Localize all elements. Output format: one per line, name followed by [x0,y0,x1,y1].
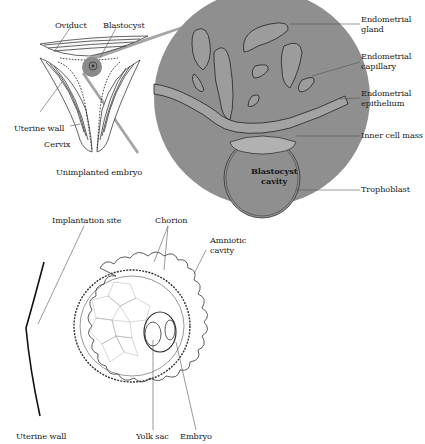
label-yolk-sac: Yolk sac [136,432,169,442]
label-endometrial-epithelium: Endometrial epithelium [361,89,411,108]
label-trophoblast: Trophoblast [361,185,410,195]
extraembryonic-cells [90,282,150,362]
label-chorion: Chorion [155,216,188,226]
label-endometrial-gland: Endometrial gland [361,15,411,34]
implantation-diagram: Oviduct Blastocyst Uterine wall Cervix U… [0,0,425,444]
label-cervix: Cervix [44,140,70,150]
uterine-wall-edge [26,262,44,416]
chorionic-villi [88,252,208,382]
label-inner-cell-mass: Inner cell mass [361,131,423,141]
label-blastocyst: Blastocyst [103,21,145,31]
amnion [144,312,176,352]
blastocyst-highlight [82,57,102,77]
label-embryo: Embryo [180,432,212,442]
label-implantation-site: Implantation site [52,216,121,226]
label-uterine-wall-bottom: Uterine wall [16,432,66,442]
chorion-membrane [74,270,190,382]
label-uterine-wall-top: Uterine wall [14,124,64,134]
label-amniotic-cavity: Amniotic cavity [210,236,246,255]
caption-unimplanted-embryo: Unimplanted embryo [56,168,142,178]
bottom-leader-lines [38,226,206,430]
uterus-illustration [40,36,148,152]
label-oviduct: Oviduct [55,21,87,31]
label-blastocyst-cavity: Blastocyst cavity [251,167,297,186]
implanted-embryo-illustration [74,252,208,382]
amniotic-cavity-shape [165,320,175,340]
label-endometrial-capillary: Endometrial capillary [361,52,411,71]
blastocyst-core [92,65,95,68]
